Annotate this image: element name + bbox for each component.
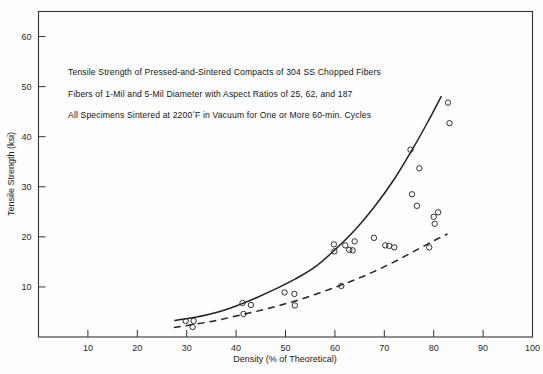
data-point: [371, 235, 376, 240]
plot-frame: [39, 12, 533, 338]
data-point: [414, 203, 419, 208]
data-point: [343, 243, 348, 248]
annotation-text-before-degree: All Specimens Sintered at 2200: [68, 110, 192, 120]
y-tick-label: 60: [21, 32, 31, 42]
x-tick-label: 70: [379, 343, 389, 353]
data-point: [352, 239, 357, 244]
annotation-line-3: All Specimens Sintered at 2200°F in Vacu…: [68, 110, 371, 120]
x-tick-label: 40: [231, 343, 241, 353]
data-point: [447, 120, 452, 125]
data-point: [417, 166, 422, 171]
y-tick-label: 40: [21, 132, 31, 142]
data-point-markers: [183, 100, 452, 330]
data-point: [391, 245, 396, 250]
data-point: [282, 290, 287, 295]
y-tick-label: 20: [21, 232, 31, 242]
data-point: [445, 100, 450, 105]
tensile-strength-scatter-chart: 102030405060708090100 102030405060 Tensi…: [0, 0, 543, 374]
x-tick-label: 80: [429, 343, 439, 353]
x-tick-label: 20: [132, 343, 142, 353]
upper-bound-solid: [175, 97, 441, 321]
y-axis-ticks: [39, 37, 46, 287]
data-point: [431, 214, 436, 219]
data-point: [292, 303, 297, 308]
x-axis-title: Density (% of Theoretical): [233, 354, 336, 364]
annotation-line-1: Tensile Strength of Pressed-and-Sintered…: [68, 67, 381, 77]
x-tick-label: 30: [182, 343, 192, 353]
data-point: [427, 245, 432, 250]
y-axis-tick-labels: 102030405060: [21, 32, 31, 292]
x-axis-tick-labels: 102030405060708090100: [83, 343, 540, 353]
x-axis-ticks: [88, 330, 533, 337]
data-point: [248, 302, 253, 307]
chart-annotation-text: Tensile Strength of Pressed-and-Sintered…: [68, 67, 381, 120]
y-tick-label: 50: [21, 82, 31, 92]
x-tick-label: 60: [330, 343, 340, 353]
y-tick-label: 30: [21, 182, 31, 192]
data-point: [432, 221, 437, 226]
data-point: [191, 318, 196, 323]
annotation-text-after-degree: F in Vacuum for One or More 60-min. Cycl…: [195, 110, 371, 120]
annotation-line-2: Fibers of 1-Mil and 5-Mil Diameter with …: [68, 89, 353, 99]
y-axis-title: Tensile Strength (ksi): [6, 132, 16, 216]
x-tick-label: 100: [525, 343, 540, 353]
data-point: [409, 192, 414, 197]
x-tick-label: 90: [478, 343, 488, 353]
x-tick-label: 10: [83, 343, 93, 353]
data-point: [331, 242, 336, 247]
data-point: [292, 291, 297, 296]
x-tick-label: 50: [280, 343, 290, 353]
y-tick-label: 10: [21, 282, 31, 292]
data-point: [435, 210, 440, 215]
trend-curves: [174, 97, 448, 328]
data-point: [350, 248, 355, 253]
figure-container: 102030405060708090100 102030405060 Tensi…: [0, 0, 543, 374]
